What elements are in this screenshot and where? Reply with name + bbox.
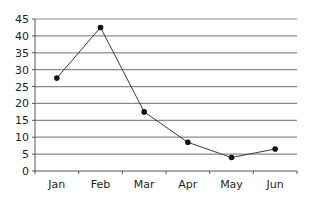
x-axis-tick-labels: JanFebMarAprMayJun [47,178,283,191]
y-tick-label: 10 [15,131,29,144]
y-tick-label: 35 [15,47,29,60]
data-point-marker [229,155,235,161]
data-point-marker [141,109,147,115]
data-point-markers [54,25,278,161]
y-tick-label: 45 [15,13,29,26]
gridlines [32,19,297,171]
y-axis-tick-labels: 051015202530354045 [15,13,29,178]
y-tick-label: 20 [15,97,29,110]
data-point-marker [54,75,60,81]
data-point-marker [272,146,278,152]
line-chart: 051015202530354045 JanFebMarAprMayJun [0,0,311,201]
x-tick-label: Feb [91,178,110,191]
x-tick-label: Jun [266,178,284,191]
y-tick-label: 15 [15,114,29,127]
y-tick-label: 30 [15,64,29,77]
data-point-marker [185,139,191,145]
y-tick-label: 5 [22,148,29,161]
y-tick-label: 40 [15,30,29,43]
y-tick-label: 25 [15,81,29,94]
data-point-marker [98,25,104,31]
data-series-line [57,27,275,157]
x-tick-label: Apr [178,178,198,191]
x-tick-label: Mar [134,178,155,191]
x-tick-label: May [220,178,243,191]
y-tick-label: 0 [22,165,29,178]
x-tick-label: Jan [47,178,65,191]
